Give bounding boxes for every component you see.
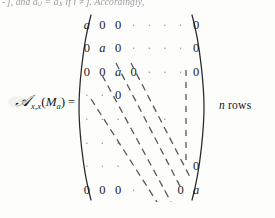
matrix-cell: · xyxy=(142,37,158,61)
matrix-cell: · xyxy=(173,13,189,37)
matrix-cell: · xyxy=(142,13,158,37)
matrix-cell xyxy=(126,108,142,132)
matrix-cell xyxy=(142,108,158,132)
matrix-cell: 0 xyxy=(110,13,126,37)
matrix-cell: · xyxy=(126,37,142,61)
matrix-cell: 0 xyxy=(95,13,111,37)
matrix-cell xyxy=(173,108,189,132)
matrix-cell: · xyxy=(157,108,173,132)
matrix-cell: · xyxy=(157,178,173,202)
matrix-cell xyxy=(188,108,204,132)
matrix-cell xyxy=(126,155,142,179)
script-a-symbol: 𝒜 xyxy=(15,93,31,109)
matrix-cell: · xyxy=(79,131,95,155)
matrix-cell: · xyxy=(157,13,173,37)
matrix-cell xyxy=(188,84,204,108)
matrix-cell: · xyxy=(142,60,158,84)
running-text: - j, and aᵢⱼ = aⱼᵢ if i ≠ j. Accordingly… xyxy=(2,0,273,7)
matrix-grid: a 0 0 · · · · 0 0 a 0 · · · · 0 0 0 a 0 … xyxy=(79,13,204,202)
matrix-cell: · xyxy=(173,60,189,84)
matrix-cell: · xyxy=(95,108,111,132)
label-m-symbol: M xyxy=(46,94,57,110)
matrix-cell: · xyxy=(95,84,111,108)
matrix-cell: · xyxy=(126,178,142,202)
matrix-cell: · xyxy=(157,60,173,84)
matrix-cell xyxy=(126,84,142,108)
n-rows-annotation: n rows xyxy=(219,99,252,111)
matrix-cell: · xyxy=(95,155,111,179)
matrix-cell: · xyxy=(142,178,158,202)
matrix-cell: · xyxy=(95,131,111,155)
label-close-paren: ) xyxy=(61,94,65,110)
matrix-cell: 0 xyxy=(110,37,126,61)
matrix-figure: a 0 0 · · · · 0 0 a 0 · · · · 0 0 0 a 0 … xyxy=(79,13,204,202)
matrix-cell xyxy=(142,131,158,155)
matrix-cell: · xyxy=(126,13,142,37)
matrix-cell xyxy=(173,84,189,108)
matrix-cell xyxy=(157,155,173,179)
matrix-cell: a xyxy=(110,60,126,84)
matrix-cell: · xyxy=(173,37,189,61)
matrix-cell xyxy=(142,155,158,179)
matrix-cell: 0 xyxy=(173,178,189,202)
matrix-cell: 0 xyxy=(188,37,204,61)
matrix-cell: 0 xyxy=(126,60,142,84)
matrix-cell: a xyxy=(188,178,204,202)
matrix-cell: a xyxy=(79,13,95,37)
matrix-label: 𝒜x,x(Ma)= xyxy=(16,93,75,113)
matrix-cell: · xyxy=(79,155,95,179)
matrix-cell: 0 xyxy=(188,155,204,179)
matrix-cell xyxy=(157,131,173,155)
matrix-cell: 0 xyxy=(95,178,111,202)
matrix-cell: a xyxy=(95,37,111,61)
matrix-cell: · xyxy=(110,131,126,155)
matrix-cell xyxy=(126,131,142,155)
matrix-cell xyxy=(188,131,204,155)
label-subscript: x,x xyxy=(31,101,41,111)
matrix-cell: 0 xyxy=(110,178,126,202)
matrix-cell: 0 xyxy=(110,84,126,108)
matrix-cell xyxy=(173,155,189,179)
matrix-cell: · xyxy=(79,84,95,108)
matrix-cell: · xyxy=(110,155,126,179)
matrix-cell xyxy=(173,131,189,155)
matrix-cell: 0 xyxy=(95,60,111,84)
matrix-cell: · xyxy=(157,37,173,61)
label-m-subscript: a xyxy=(56,101,60,111)
matrix-cell: 0 xyxy=(79,178,95,202)
rows-label: rows xyxy=(228,99,252,111)
matrix-cell xyxy=(142,84,158,108)
figure-page: - j, and aᵢⱼ = aⱼᵢ if i ≠ j. Accordingly… xyxy=(0,0,275,218)
matrix-cell: 0 xyxy=(79,37,95,61)
equals-sign: = xyxy=(68,95,75,110)
matrix-cell: 0 xyxy=(79,60,95,84)
matrix-cell: · xyxy=(79,108,95,132)
matrix-cell: 0 xyxy=(188,60,204,84)
matrix-cell: · xyxy=(110,108,126,132)
matrix-cell xyxy=(157,84,173,108)
matrix-cell: 0 xyxy=(188,13,204,37)
